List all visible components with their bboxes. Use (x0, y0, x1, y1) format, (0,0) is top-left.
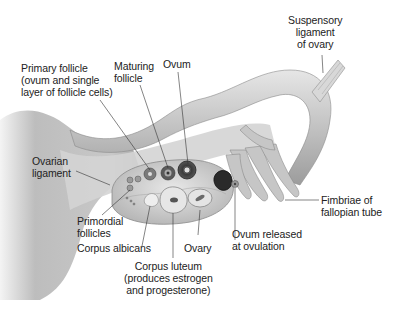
label-primordial-follicles: Primordial follicles (77, 215, 123, 239)
ruptured-follicle (214, 171, 232, 191)
label-primary-follicle: Primary follicle (ovum and single layer … (21, 62, 113, 98)
label-ovum-released: Ovum released at ovulation (232, 228, 302, 252)
label-corpus-albicans: Corpus albicans (77, 242, 151, 254)
label-ovum: Ovum (163, 58, 191, 70)
label-suspensory-ligament: Suspensory ligament of ovary (288, 14, 342, 50)
ovary-anatomy-diagram: Suspensory ligament of ovary Primary fol… (0, 0, 399, 309)
label-fimbriae: Fimbriae of fallopian tube (321, 194, 382, 218)
label-ovarian-ligament: Ovarian ligament (32, 155, 71, 179)
label-corpus-luteum: Corpus luteum (produces estrogen and pro… (124, 260, 213, 296)
label-ovary: Ovary (184, 242, 212, 254)
label-maturing-follicle: Maturing follicle (114, 60, 154, 84)
